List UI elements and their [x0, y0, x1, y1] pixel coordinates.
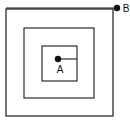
- point-a-label: A: [57, 64, 64, 75]
- point-b-marker: [114, 5, 120, 11]
- point-b-label: B: [123, 3, 130, 14]
- middle-square: [24, 28, 94, 98]
- diagram-canvas: A B: [0, 0, 130, 122]
- point-a-marker: [55, 56, 61, 62]
- nested-squares-diagram: A B: [0, 0, 130, 122]
- outer-square: [6, 9, 113, 116]
